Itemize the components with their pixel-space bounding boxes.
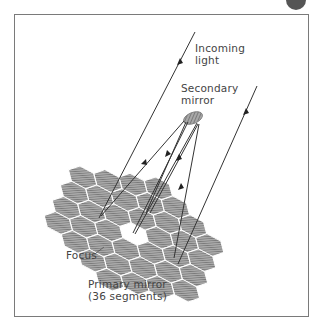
secondary-mirror-label: Secondary mirror xyxy=(181,82,238,106)
secondary-mirror-line-1: Secondary xyxy=(181,82,238,94)
incoming-light-line-2: light xyxy=(195,54,245,66)
focus-label: Focus xyxy=(66,249,97,261)
secondary-mirror-line-2: mirror xyxy=(181,94,238,106)
ray-arrowheads xyxy=(141,58,249,190)
incoming-light-label: Incoming light xyxy=(195,42,245,66)
incoming-light-line-1: Incoming xyxy=(195,42,245,54)
primary-mirror-label: Primary mirror (36 segments) xyxy=(88,278,167,302)
primary-mirror-line-1: Primary mirror xyxy=(88,278,167,290)
primary-mirror-line-2: (36 segments) xyxy=(88,290,167,302)
